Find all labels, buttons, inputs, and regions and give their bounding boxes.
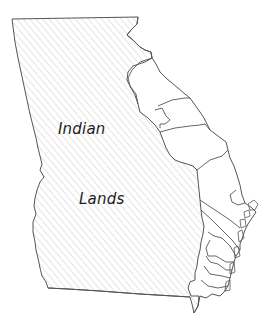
indian-lands-region — [12, 17, 204, 313]
indian-lands-label-line1: Indian — [58, 120, 106, 138]
georgia-map — [0, 0, 278, 326]
indian-lands-label-line2: Lands — [79, 190, 124, 208]
